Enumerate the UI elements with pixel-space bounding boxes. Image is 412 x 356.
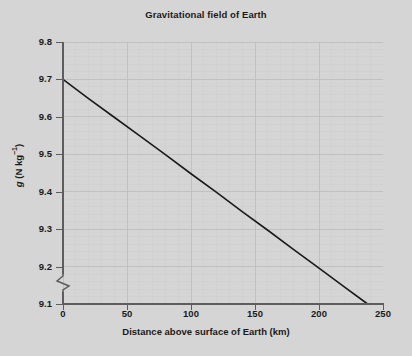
y-axis-tick-label: 9.3 (24, 223, 52, 234)
y-axis-tick (56, 117, 63, 118)
y-axis-tick-label: 9.7 (24, 73, 52, 84)
y-axis-tick-label: 9.6 (24, 111, 52, 122)
x-axis-tick-label: 0 (43, 308, 83, 319)
y-axis-title-unit: (N kg−1) (13, 144, 24, 182)
y-axis-tick (56, 267, 63, 268)
y-axis-tick (56, 192, 63, 193)
chart-title: Gravitational field of Earth (0, 9, 412, 20)
y-axis-title: g (N kg−1) (13, 126, 24, 206)
x-axis-tick-label: 50 (107, 308, 147, 319)
y-axis-title-unit-close: ) (13, 144, 24, 147)
y-axis-tick (56, 42, 63, 43)
y-axis-tick-label: 9.4 (24, 186, 52, 197)
x-axis-tick-label: 200 (299, 308, 339, 319)
y-axis-tick (56, 229, 63, 230)
x-axis-tick-label: 150 (235, 308, 275, 319)
x-axis-tick-label: 250 (363, 308, 403, 319)
y-axis-tick-label: 9.2 (24, 261, 52, 272)
y-axis-title-unit-text: (N kg (13, 155, 24, 179)
y-axis-tick (56, 154, 63, 155)
x-axis-line (62, 303, 384, 305)
chart-figure: Gravitational field of Earth 9.19.29.39.… (0, 0, 412, 356)
y-axis-title-exponent: −1 (11, 147, 18, 155)
y-axis-line-upper (62, 42, 64, 274)
y-axis-tick (56, 79, 63, 80)
y-axis-title-symbol: g (13, 181, 24, 187)
x-axis-tick-label: 100 (171, 308, 211, 319)
y-axis-break-icon (55, 272, 73, 294)
y-axis-tick (56, 304, 63, 305)
y-axis-tick-label: 9.8 (24, 36, 52, 47)
x-axis-title: Distance above surface of Earth (km) (0, 326, 412, 337)
gridlines (63, 42, 383, 304)
y-axis-tick-label: 9.5 (24, 148, 52, 159)
plot-area (63, 42, 383, 304)
